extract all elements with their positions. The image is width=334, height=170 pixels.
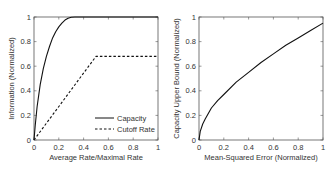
x-tick-label: 0.8 — [128, 143, 138, 152]
y-axis-label: Capacity Upper Bound (Normalized) — [172, 18, 181, 139]
y-axis-label: Information (Normalized) — [7, 37, 16, 120]
series-line-capacity-upper-bound — [199, 23, 323, 140]
x-axis-label: Mean-Squared Error (Normalized) — [204, 153, 318, 162]
x-tick-label: 0.4 — [78, 143, 88, 152]
x-tick-label: 0.2 — [219, 143, 229, 152]
y-tick-label: 0 — [192, 136, 196, 145]
y-tick-label: 0.8 — [21, 37, 31, 46]
legend: Capacity Cutoff Rate — [95, 114, 155, 134]
x-tick-label: 0 — [197, 143, 201, 152]
figure: 00.20.40.60.8100.20.40.60.81 Average Rat… — [0, 0, 334, 170]
x-tick-label: 1 — [156, 143, 160, 152]
y-tick-label: 0.8 — [186, 37, 196, 46]
y-tick-label: 0.6 — [186, 62, 196, 71]
y-tick-label: 0.2 — [186, 111, 196, 120]
y-tick-label: 0 — [27, 136, 31, 145]
chart-capacity-bound-vs-mse: 00.20.40.60.8100.20.40.60.81 Mean-Square… — [172, 13, 325, 162]
chart-information-vs-rate: 00.20.40.60.8100.20.40.60.81 Average Rat… — [7, 13, 160, 162]
y-tick-label: 0.4 — [21, 86, 31, 95]
legend-label-capacity: Capacity — [117, 114, 146, 123]
x-tick-label: 1 — [321, 143, 325, 152]
axes-frame — [199, 17, 323, 140]
x-axis-label: Average Rate/Maximal Rate — [49, 153, 143, 162]
x-tick-label: 0.6 — [268, 143, 278, 152]
y-tick-label: 0.6 — [21, 62, 31, 71]
x-tick-label: 0.6 — [103, 143, 113, 152]
legend-label-cutoff-rate: Cutoff Rate — [117, 125, 155, 134]
axis-ticks: 00.20.40.60.8100.20.40.60.81 — [186, 13, 326, 152]
y-tick-label: 1 — [27, 13, 31, 22]
data-series — [199, 23, 323, 140]
y-tick-label: 1 — [192, 13, 196, 22]
y-tick-label: 0.4 — [186, 86, 196, 95]
x-tick-label: 0.8 — [293, 143, 303, 152]
x-tick-label: 0 — [32, 143, 36, 152]
x-tick-label: 0.4 — [243, 143, 253, 152]
x-tick-label: 0.2 — [54, 143, 64, 152]
y-tick-label: 0.2 — [21, 111, 31, 120]
